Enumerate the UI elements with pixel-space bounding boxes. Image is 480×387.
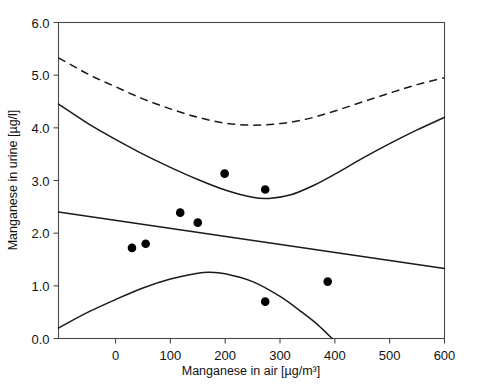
x-axis-title: Manganese in air [µg/m³] xyxy=(182,364,321,378)
y-tick-label: 2.0 xyxy=(31,226,49,241)
x-tick-label: 200 xyxy=(214,348,236,363)
y-tick-label: 1.0 xyxy=(31,279,49,294)
y-tick-label: 4.0 xyxy=(31,121,49,136)
y-tick-label: 5.0 xyxy=(31,68,49,83)
scatter-plot: 0100200300400500600 0.01.02.03.04.05.06.… xyxy=(0,0,480,387)
data-point xyxy=(220,169,229,178)
x-tick-label: 600 xyxy=(434,348,456,363)
y-axis-title: Manganese in urine [µg/l] xyxy=(6,110,20,251)
x-tick-label: 0 xyxy=(112,348,119,363)
data-point xyxy=(323,277,332,286)
curve-lower-confidence-band xyxy=(59,272,333,338)
data-point xyxy=(141,239,150,248)
x-tick-label: 400 xyxy=(324,348,346,363)
y-axis-tick-labels: 0.01.02.03.04.05.06.0 xyxy=(31,16,49,347)
data-point xyxy=(261,297,270,306)
x-tick-label: 300 xyxy=(269,348,291,363)
x-tick-label: 100 xyxy=(160,348,182,363)
y-tick-label: 6.0 xyxy=(31,16,49,31)
y-tick-label: 0.0 xyxy=(31,332,49,347)
data-point xyxy=(128,244,137,253)
curve-regression-line xyxy=(59,212,445,268)
x-axis-tick-labels: 0100200300400500600 xyxy=(112,348,455,363)
plot-frame xyxy=(59,23,445,339)
y-axis-ticks xyxy=(54,23,59,339)
data-point xyxy=(176,208,185,217)
chart-figure: 0100200300400500600 0.01.02.03.04.05.06.… xyxy=(0,0,480,387)
y-tick-label: 3.0 xyxy=(31,174,49,189)
x-tick-label: 500 xyxy=(379,348,401,363)
fitted-curves xyxy=(59,58,445,339)
curve-upper-prediction-band xyxy=(59,58,445,125)
curve-upper-confidence-band xyxy=(59,104,445,199)
data-point xyxy=(193,218,202,227)
data-point xyxy=(261,185,270,194)
x-axis-ticks xyxy=(116,339,445,344)
